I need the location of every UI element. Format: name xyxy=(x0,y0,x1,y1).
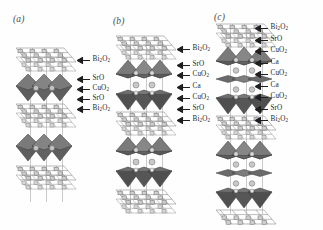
panel-a-tag: (a) xyxy=(13,14,25,24)
layer-octahedra-cuo2 xyxy=(12,70,82,102)
layer-label-cuo2-lower: CuO2 xyxy=(177,93,209,103)
layer-label-sro-upper: SrO xyxy=(177,60,204,70)
arrow-icon xyxy=(255,83,268,90)
arrow-icon xyxy=(177,117,190,124)
arrow-icon xyxy=(255,37,268,44)
layer-octahedra-cuo2-repeat xyxy=(12,130,82,162)
arrow-icon xyxy=(255,48,268,55)
arrow-icon xyxy=(77,106,90,113)
panel-a: (a) xyxy=(0,0,108,230)
layer-label-text: CuO2 xyxy=(271,70,288,77)
panel-c-labels: Bi2O2 SrO CuO2 Ca CuO2 Ca CuO2 SrO xyxy=(255,0,323,230)
figure-canvas: (a) xyxy=(0,0,323,230)
layer-label-sro-upper: SrO xyxy=(255,35,282,45)
layer-label-bi2o2-bottom: Bi2O2 xyxy=(255,115,288,125)
layer-label-sro-lower: SrO xyxy=(255,104,282,114)
layer-label-text: SrO xyxy=(193,61,205,68)
arrow-icon xyxy=(255,94,268,101)
layer-label-ca-lower: Ca xyxy=(255,81,279,91)
panel-c: (c) xyxy=(206,0,323,230)
layer-sheet-bi2o2-bottom-lower xyxy=(114,195,176,217)
layer-label-cuo2-upper: CuO2 xyxy=(177,70,209,80)
arrow-icon xyxy=(177,106,190,113)
arrow-icon xyxy=(77,86,90,93)
panel-b-structure xyxy=(112,32,182,218)
layer-label-text: SrO xyxy=(93,95,105,102)
arrow-icon xyxy=(255,25,268,32)
layer-label-text: Ca xyxy=(193,83,201,90)
layer-label-sro-lower: SrO xyxy=(177,104,204,114)
arrow-icon xyxy=(255,60,268,67)
layer-label-text: Bi2O2 xyxy=(271,24,289,31)
arrow-icon xyxy=(177,84,190,91)
layer-label-text: SrO xyxy=(271,36,283,43)
layer-label-cuo2-upper: CuO2 xyxy=(255,46,287,56)
layer-label-bi2o2-top: Bi2O2 xyxy=(255,23,288,33)
arrow-icon xyxy=(177,62,190,69)
panel-b: (b) xyxy=(104,0,212,230)
arrow-icon xyxy=(77,57,90,64)
layer-pyramids-cuo2-upper-repeat xyxy=(112,134,182,156)
arrow-icon xyxy=(77,76,90,83)
layer-label-text: Bi2O2 xyxy=(271,116,289,123)
layer-pyramids-cuo2-upper xyxy=(112,57,182,79)
layer-label-text: Ca xyxy=(271,82,279,89)
layer-label-sro-upper: SrO xyxy=(77,74,104,84)
panel-b-tag: (b) xyxy=(113,16,125,26)
layer-sheet-bi2o2-lower xyxy=(14,109,76,131)
layer-label-text: SrO xyxy=(193,105,205,112)
layer-label-sro-lower: SrO xyxy=(77,94,104,104)
arrow-icon xyxy=(255,117,268,124)
arrow-icon xyxy=(255,71,268,78)
layer-label-text: SrO xyxy=(271,105,283,112)
layer-label-text: SrO xyxy=(93,75,105,82)
arrow-icon xyxy=(177,72,190,79)
layer-label-cuo2-middle: CuO2 xyxy=(255,69,287,79)
layer-label-cuo2-lower: CuO2 xyxy=(255,92,287,102)
layer-label-text: Ca xyxy=(271,59,279,66)
arrow-icon xyxy=(77,96,90,103)
layer-sheet-bi2o2-lower xyxy=(14,171,76,193)
layer-label-text: CuO2 xyxy=(271,47,288,54)
arrow-icon xyxy=(177,46,190,53)
arrow-icon xyxy=(255,106,268,113)
layer-label-text: CuO2 xyxy=(271,93,288,100)
panel-a-structure xyxy=(12,44,82,214)
layer-label-ca-upper: Ca xyxy=(255,58,279,68)
layer-label-ca: Ca xyxy=(177,82,201,92)
arrow-icon xyxy=(177,95,190,102)
